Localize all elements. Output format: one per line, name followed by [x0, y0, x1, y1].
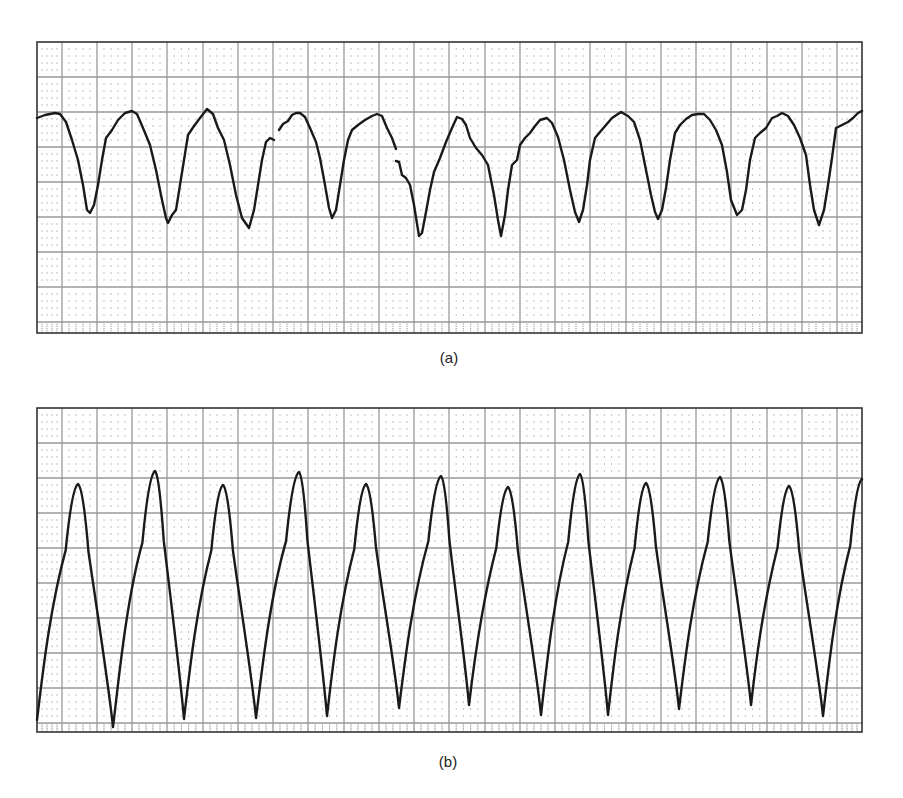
- ecg-strip-a: [37, 42, 862, 333]
- panel-label-a: (a): [440, 349, 458, 366]
- ecg-strip-b: [37, 408, 862, 732]
- strip-a-major-grid: [37, 42, 862, 333]
- panel-label-b: (b): [439, 753, 457, 770]
- ecg-figure: [0, 0, 903, 798]
